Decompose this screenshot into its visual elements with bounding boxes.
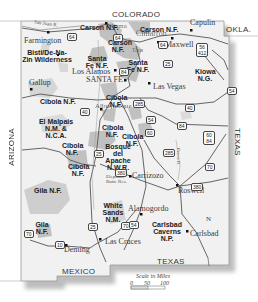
park-kiowa: Kiowa N.G. xyxy=(195,68,215,82)
scale-title: Scale in Miles xyxy=(136,273,170,279)
route-shield-25: 25 xyxy=(94,150,104,158)
park-cibola-w1: Cibola N.F. xyxy=(62,142,82,156)
city-las-cruces: Las Cruces xyxy=(105,238,141,246)
route-shield-40: 40 xyxy=(80,108,90,116)
park-carson-ne: Carson N.F. xyxy=(140,26,179,33)
scale-bar xyxy=(131,286,165,289)
new-mexico-map: COLORADO OKLA. TEXAS TEXAS MEXICO ARIZON… xyxy=(0,0,258,302)
city-alamogordo: Alamogordo xyxy=(128,205,168,213)
city-farmington: Farmington xyxy=(24,37,61,45)
city-carlsbad: Carlsbad xyxy=(190,230,218,238)
route-shield-60: 60 xyxy=(145,129,155,137)
route-shield-380: 380 xyxy=(115,169,127,177)
park-el-malpais: El Malpais N.M. & N.C.A. xyxy=(34,118,78,139)
route-shield-285: 285 xyxy=(133,100,145,108)
city-maxwell: Maxwell xyxy=(165,41,193,49)
park-gila-2: Gila N.F. xyxy=(34,221,50,235)
park-cibola-w2: Cibola N.F. xyxy=(68,163,88,177)
park-carlsbad-caverns: Carlsbad Caverns N.P. xyxy=(150,221,184,242)
city-taos: Taos xyxy=(132,47,143,53)
label-mexico: MEXICO xyxy=(62,268,95,276)
route-shield-84: 84 xyxy=(119,68,129,76)
route-shield-64: 64 xyxy=(158,41,168,49)
route-shield-54: 54 xyxy=(129,221,139,229)
pecos-river-label: Pecos R. xyxy=(176,148,181,166)
label-colorado: COLORADO xyxy=(112,11,160,19)
park-bosque: Bosque del Apache N.W.R. xyxy=(100,143,136,171)
route-shield-70: 70 xyxy=(24,230,34,238)
route-shield-25: 25 xyxy=(163,60,173,68)
route-shield-285: 285 xyxy=(163,149,175,157)
park-carson-nw: Carson N.F. xyxy=(80,24,119,31)
city-carrizozo: Carrizozo xyxy=(132,172,164,180)
route-shield-25: 25 xyxy=(88,223,98,231)
park-bisti: Bisti/De-Na-Zin Wilderness xyxy=(22,49,72,63)
route-shield-70: 70 xyxy=(205,163,215,171)
park-santafe-w: Santa Fe N.F. xyxy=(84,55,110,69)
park-santafe-e: Santa Fe N.F. xyxy=(126,59,150,73)
scale-tick-50: 50 xyxy=(144,280,150,286)
label-arizona: ARIZONA xyxy=(8,128,16,166)
city-gallup: Gallup xyxy=(29,79,51,87)
route-shield-40: 40 xyxy=(185,104,195,112)
north-arrow-label: N xyxy=(206,216,211,223)
route-shield-380: 380 xyxy=(191,183,203,191)
route-shield-54: 54 xyxy=(227,87,237,95)
route-shield-56-412: 56 412 xyxy=(196,43,208,57)
scale-tick-0: 0 xyxy=(130,280,133,286)
scale-tick-100: 100 xyxy=(160,280,169,286)
park-cibola-nw: Cibola N.F. xyxy=(40,98,76,105)
city-deming: Deming xyxy=(64,246,90,254)
route-shield-64: 64 xyxy=(113,34,123,42)
route-shield-84: 84 xyxy=(177,122,187,130)
park-cibola-c1: Cibola N.F. xyxy=(102,124,122,138)
route-shield-54: 54 xyxy=(146,116,156,124)
route-shield-10: 10 xyxy=(55,241,65,249)
route-shield-64: 64 xyxy=(67,33,77,41)
route-shield-60-84: 60 84 xyxy=(203,131,215,145)
label-texas-east: TEXAS xyxy=(233,128,241,156)
city-capulin: Capulin xyxy=(190,19,215,27)
park-white-sands: White Sands N.M. xyxy=(100,202,126,223)
label-texas-south: TEXAS xyxy=(157,258,185,266)
city-santa-fe: SANTA FE xyxy=(86,76,123,84)
city-las-vegas: Las Vegas xyxy=(153,83,186,91)
park-gila-1: Gila N.F. xyxy=(34,187,62,194)
park-cibola-alb: Cibola N.F. xyxy=(106,94,126,108)
label-oklahoma: OKLA. xyxy=(226,26,251,34)
